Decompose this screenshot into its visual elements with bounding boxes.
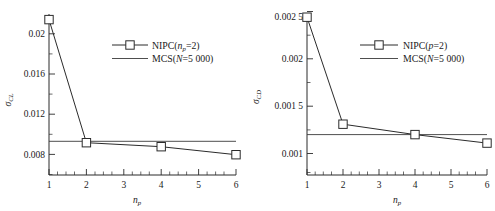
axes-right (307, 14, 487, 175)
x-tick-labels-right: 1 2 3 4 5 6 (305, 180, 490, 190)
x-tick-labels-left: 1 2 3 4 5 6 (47, 180, 239, 190)
x-tick-label: 2 (341, 180, 346, 190)
y-tick-label: 0.008 (24, 150, 46, 160)
axes-left (49, 14, 236, 175)
data-point-marker (45, 15, 53, 23)
x-axis-title-left: np (133, 195, 142, 206)
legend-mcs-label: MCS(N=5 000) (152, 53, 213, 65)
x-tick-label: 4 (413, 180, 418, 190)
nipc-series-left (45, 15, 240, 159)
y-tick-label: 0.02 (28, 29, 45, 39)
nipc-line (307, 17, 487, 143)
x-tick-label: 5 (196, 180, 201, 190)
x-tick-label: 6 (485, 180, 490, 190)
svg-text:σCL: σCL (3, 93, 14, 106)
svg-text:σCD: σCD (251, 90, 262, 104)
x-ticks-right (307, 169, 487, 175)
svg-text:np: np (133, 195, 142, 206)
y-axis-title-left: σCL (3, 93, 14, 106)
y-tick-labels-left: 0.008 0.012 0.016 0.02 (24, 29, 46, 160)
legend-left: NIPC(np=2) MCS(N=5 000) (112, 40, 213, 66)
y-axis-title-sub: CD (255, 90, 262, 100)
y-tick-label: 0.001 (282, 149, 304, 159)
y-axis-title-right: σCD (251, 90, 262, 104)
y-tick-labels-right: 0.001 0.001 5 0.002 0.002 5 (275, 12, 304, 159)
x-tick-label: 1 (305, 180, 310, 190)
y-tick-label: 0.016 (24, 69, 46, 79)
x-axis-title-sub: p (397, 199, 402, 206)
data-point-marker (82, 139, 90, 147)
legend-mcs-label: MCS(N=5 000) (403, 53, 464, 65)
x-tick-label: 6 (234, 180, 239, 190)
svg-text:np: np (393, 195, 402, 206)
x-axis-title-right: np (393, 195, 402, 206)
chart-panel-right: 0.001 0.001 5 0.002 0.002 5 (247, 0, 494, 211)
data-point-marker (483, 139, 491, 147)
legend-right: NIPC(p=2) MCS(N=5 000) (360, 40, 464, 66)
plot-right: 0.001 0.001 5 0.002 0.002 5 (247, 0, 495, 211)
y-tick-label: 0.001 5 (275, 101, 304, 111)
legend-nipc-label: NIPC(np=2) (152, 40, 200, 52)
x-tick-label: 5 (449, 180, 454, 190)
data-point-marker (232, 151, 240, 159)
y-tick-label: 0.002 5 (275, 12, 304, 22)
legend-nipc-marker (126, 41, 134, 49)
x-tick-label: 2 (84, 180, 89, 190)
x-tick-label: 3 (121, 180, 126, 190)
x-tick-label: 4 (159, 180, 164, 190)
data-point-marker (411, 130, 419, 138)
y-tick-label: 0.012 (24, 109, 46, 119)
legend-nipc-label: NIPC(p=2) (403, 40, 447, 52)
figure-container: 0.008 0.012 0.016 0.02 (0, 0, 495, 211)
nipc-series-right (303, 13, 491, 147)
y-axis-title-sub: CL (7, 93, 14, 102)
y-tick-label: 0.002 (282, 54, 304, 64)
nipc-line (49, 20, 236, 155)
data-point-marker (157, 143, 165, 151)
legend-nipc-marker (375, 41, 383, 49)
x-ticks-left (49, 169, 236, 175)
chart-panel-left: 0.008 0.012 0.016 0.02 (0, 0, 247, 211)
data-point-marker (339, 120, 347, 128)
data-point-marker (303, 13, 311, 21)
x-tick-label: 3 (377, 180, 382, 190)
plot-left: 0.008 0.012 0.016 0.02 (0, 0, 247, 211)
x-tick-label: 1 (47, 180, 52, 190)
x-axis-title-sub: p (137, 199, 142, 206)
y-ticks-left (49, 34, 55, 175)
y-ticks-right (307, 12, 313, 173)
